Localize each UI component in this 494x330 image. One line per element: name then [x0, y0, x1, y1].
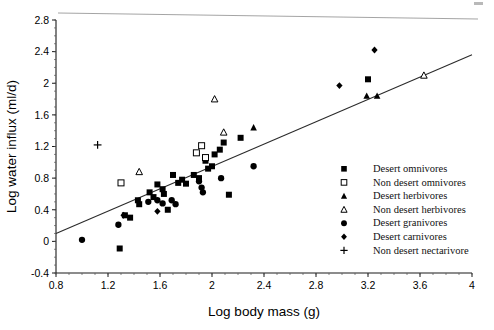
point-p4-11	[250, 163, 256, 169]
x-tick-label: 4	[469, 279, 475, 291]
point-p3-1	[211, 96, 218, 102]
legend-item-1: Non desert omnivores	[341, 177, 466, 188]
scatter-chart-figure: -0.400.40.81.21.622.42.80.81.21.622.42.8…	[0, 0, 494, 330]
legend-label-1: Non desert omnivores	[373, 177, 466, 188]
legend-item-4: Desert granivores	[341, 217, 447, 228]
point-p2-2	[374, 92, 381, 98]
legend-item-3: Non desert herbivores	[341, 204, 466, 215]
point-p1-0	[118, 180, 124, 186]
point-p0-22	[221, 140, 227, 146]
series-desert-omnivores	[117, 76, 371, 251]
y-tick-label: 1.6	[34, 109, 49, 121]
y-tick-label: -0.4	[31, 267, 49, 279]
point-legend-marker-4	[341, 220, 347, 226]
point-p1-2	[199, 143, 205, 149]
legend-item-6: Non desert nectarivore	[340, 245, 469, 256]
point-p0-23	[226, 192, 232, 198]
x-axis-title: Log body mass (g)	[208, 304, 320, 319]
legend-label-0: Desert omnivores	[373, 163, 447, 174]
point-p0-24	[238, 135, 244, 141]
series-non-desert-herbivores	[136, 72, 427, 175]
point-p3-2	[220, 129, 227, 135]
x-tick-label: 2.4	[257, 279, 272, 291]
legend-label-6: Non desert nectarivore	[373, 245, 469, 256]
legend-label-4: Desert granivores	[373, 217, 447, 228]
chart-legend: Desert omnivoresNon desert omnivoresDese…	[340, 163, 469, 256]
point-p0-2	[127, 215, 133, 221]
point-p4-7	[196, 178, 202, 184]
series-desert-carnivores	[120, 47, 377, 219]
point-p0-14	[183, 181, 189, 187]
point-p0-10	[165, 207, 171, 213]
point-p2-0	[250, 124, 257, 130]
x-tick-label: 1.6	[153, 279, 168, 291]
point-p4-4	[159, 200, 165, 206]
x-tick-label: 1.2	[101, 279, 116, 291]
y-tick-label: 2.8	[34, 14, 49, 26]
point-p4-6	[172, 201, 178, 207]
y-tick-label: 0	[43, 235, 49, 247]
point-p4-10	[218, 175, 224, 181]
legend-item-0: Desert omnivores	[341, 163, 447, 174]
point-p0-19	[209, 163, 215, 169]
y-tick-label: 1.2	[34, 140, 49, 152]
point-p0-11	[170, 172, 176, 178]
point-p4-2	[145, 199, 151, 205]
point-p5-3	[371, 47, 377, 54]
legend-item-2: Desert herbivores	[341, 190, 447, 201]
point-p0-20	[212, 151, 218, 157]
point-legend-marker-0	[341, 166, 347, 172]
point-p4-9	[200, 189, 206, 195]
scan-artifact-line	[58, 2, 483, 19]
point-legend-marker-3	[341, 206, 347, 212]
point-p5-1	[154, 208, 160, 215]
x-tick-label: 3.6	[413, 279, 428, 291]
series-non-desert-omnivores	[118, 143, 209, 186]
legend-label-3: Non desert herbivores	[373, 204, 466, 215]
point-p1-1	[193, 150, 199, 156]
point-p1-3	[203, 155, 209, 161]
point-p4-0	[79, 237, 85, 243]
y-tick-label: 2.4	[34, 45, 49, 57]
point-p0-7	[154, 181, 160, 187]
legend-item-5: Desert carnivores	[341, 231, 447, 242]
point-p0-25	[365, 76, 371, 82]
x-tick-label: 2	[209, 279, 215, 291]
point-p4-1	[115, 222, 121, 228]
series-desert-herbivores	[250, 92, 380, 130]
point-p0-21	[217, 147, 223, 153]
point-legend-marker-1	[341, 180, 347, 186]
x-tick-label: 0.8	[49, 279, 64, 291]
y-tick-label: 2	[43, 77, 49, 89]
series-desert-granivores	[79, 163, 257, 243]
y-tick-label: 0.8	[34, 172, 49, 184]
x-tick-label: 2.8	[309, 279, 324, 291]
point-p3-0	[136, 168, 143, 174]
x-tick-label: 3.2	[361, 279, 376, 291]
point-p6-0	[94, 141, 102, 149]
legend-label-2: Desert herbivores	[373, 190, 447, 201]
chart-canvas: -0.400.40.81.21.622.42.80.81.21.622.42.8…	[0, 0, 494, 330]
point-p0-15	[191, 172, 197, 178]
point-p5-2	[336, 82, 342, 89]
y-axis-title: Log water influx (ml/d)	[4, 80, 19, 213]
legend-label-5: Desert carnivores	[373, 231, 447, 242]
point-p0-9	[161, 191, 167, 197]
point-p2-1	[363, 92, 370, 98]
point-legend-marker-5	[341, 234, 347, 240]
y-tick-label: 0.4	[34, 204, 49, 216]
point-legend-marker-2	[341, 193, 347, 199]
point-legend-marker-6	[340, 247, 347, 254]
point-p0-4	[136, 201, 142, 207]
point-p0-0	[117, 245, 123, 251]
series-non-desert-nectarivore	[94, 141, 102, 149]
